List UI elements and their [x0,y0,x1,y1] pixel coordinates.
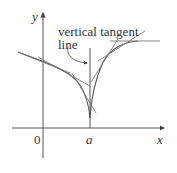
x-axis-label: x [157,133,163,146]
curve-right-branch [90,41,138,118]
y-axis-label: y [32,10,38,23]
annotation-line-2: line [58,38,78,51]
tangent-line-right-1 [91,39,118,82]
vertical-tangent-diagram: vertical tangent line y 0 a x [0,0,177,173]
origin-label: 0 [34,133,41,146]
tangent-line-left-2 [38,57,90,86]
tangent-line-left-1 [20,53,70,73]
tick-label-a: a [86,133,93,146]
